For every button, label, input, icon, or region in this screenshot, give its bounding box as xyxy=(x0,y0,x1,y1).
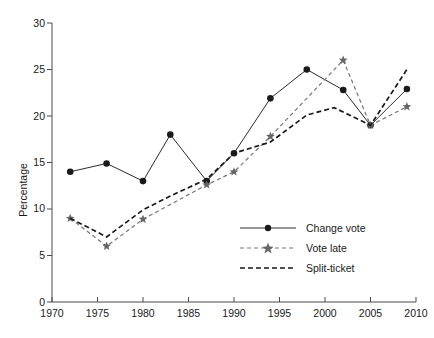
x-tick-label-1990: 1990 xyxy=(222,307,246,319)
series-line xyxy=(70,70,407,237)
legend-label-vote-late: Vote late xyxy=(306,242,347,254)
series-vote-late xyxy=(66,56,411,250)
y-axis-title: Percentage xyxy=(17,163,29,217)
x-tick-label-1980: 1980 xyxy=(131,307,155,319)
data-point-marker xyxy=(267,95,274,102)
y-tick-label-15: 15 xyxy=(33,156,45,168)
x-tick-label-2010: 2010 xyxy=(404,307,428,319)
legend-label-change-vote: Change vote xyxy=(306,222,366,234)
data-point-marker xyxy=(404,86,411,93)
x-tick-label-2000: 2000 xyxy=(313,307,337,319)
series-line xyxy=(70,60,407,246)
data-point-marker xyxy=(67,169,74,176)
x-tick-label-1970: 1970 xyxy=(40,307,64,319)
chart-legend: Change vote Vote late Split-ticket xyxy=(240,222,366,274)
legend-marker-circle-icon xyxy=(265,225,271,231)
chart-container: Percentage 30 25 20 15 10 5 0 1970 1975 … xyxy=(0,0,434,338)
legend-label-split-ticket: Split-ticket xyxy=(306,262,355,274)
line-chart: Percentage 30 25 20 15 10 5 0 1970 1975 … xyxy=(0,0,434,338)
y-tick-label-20: 20 xyxy=(33,110,45,122)
series-layer xyxy=(66,56,411,250)
y-tick-label-5: 5 xyxy=(39,249,45,261)
legend-marker-star-icon xyxy=(262,243,273,254)
data-point-marker xyxy=(167,131,174,138)
y-tick-label-25: 25 xyxy=(33,63,45,75)
legend-item-split-ticket[interactable]: Split-ticket xyxy=(240,262,355,274)
data-point-marker xyxy=(340,87,347,94)
y-tick-label-30: 30 xyxy=(33,17,45,29)
legend-item-vote-late[interactable]: Vote late xyxy=(240,242,347,254)
data-point-marker xyxy=(403,102,412,110)
series-line xyxy=(70,70,407,182)
legend-item-change-vote[interactable]: Change vote xyxy=(240,222,366,234)
y-tick-label-10: 10 xyxy=(33,202,45,214)
x-tick-label-1975: 1975 xyxy=(86,307,110,319)
series-change-vote xyxy=(67,66,410,184)
data-point-marker xyxy=(140,178,147,185)
data-point-marker xyxy=(102,242,111,250)
x-tick-label-1995: 1995 xyxy=(268,307,292,319)
data-point-marker xyxy=(103,160,110,167)
x-tick-label-1985: 1985 xyxy=(177,307,201,319)
data-point-marker xyxy=(304,66,311,73)
series-split-ticket xyxy=(70,70,407,237)
x-tick-label-2005: 2005 xyxy=(359,307,383,319)
